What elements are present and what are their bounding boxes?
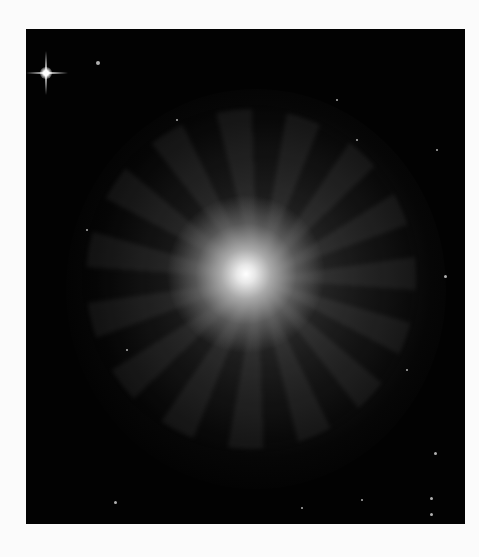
- galaxy-photo: [26, 29, 465, 524]
- star: [336, 99, 338, 101]
- star: [430, 497, 433, 500]
- galaxy-core: [166, 194, 326, 354]
- foreground-star: [40, 67, 52, 79]
- star: [126, 349, 128, 351]
- star: [444, 275, 447, 278]
- star: [434, 452, 437, 455]
- star: [406, 369, 408, 371]
- star: [301, 507, 303, 509]
- star: [114, 501, 117, 504]
- star: [430, 513, 433, 516]
- star: [356, 139, 358, 141]
- star: [96, 61, 100, 65]
- star: [436, 149, 438, 151]
- star: [176, 119, 178, 121]
- star: [86, 229, 88, 231]
- star: [361, 499, 363, 501]
